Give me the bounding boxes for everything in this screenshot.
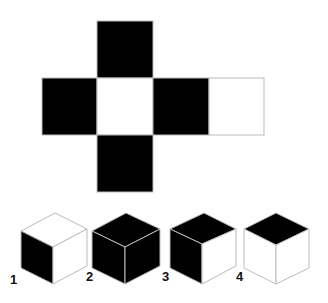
net-face-left [42, 78, 97, 135]
option-label-2: 2 [86, 269, 93, 284]
option-cube-4[interactable] [244, 213, 309, 284]
option-label-4: 4 [236, 269, 243, 284]
net-face-center [97, 78, 153, 135]
net-face-right [153, 78, 209, 135]
option-label-3: 3 [162, 269, 169, 284]
option-label-1: 1 [10, 272, 17, 287]
option-cube-1[interactable] [21, 213, 87, 284]
cube-puzzle-figure [0, 0, 328, 303]
cube-net [42, 21, 264, 192]
net-face-bottom [97, 135, 153, 192]
net-face-top [97, 21, 153, 78]
option-cube-3[interactable] [170, 213, 236, 284]
net-face-far-right [209, 78, 264, 135]
option-cube-2[interactable] [92, 213, 160, 284]
